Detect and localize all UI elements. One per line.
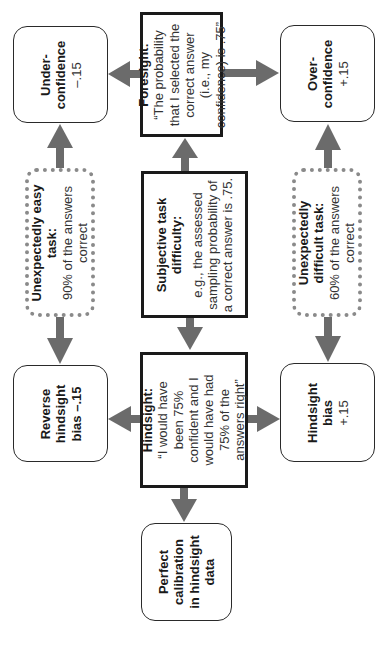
arrow-subjective-to-hindsight: [177, 317, 203, 350]
easy-task-box: Unexpectedly easy task: 90% of the answe…: [25, 168, 95, 317]
foresight-line-4: (i.e., my: [197, 15, 212, 134]
foresight-line-2: that I selected the: [166, 15, 181, 134]
subjective-line-2: sampling probability of: [205, 174, 220, 316]
perfect-calibration-title-1: Perfect: [156, 523, 171, 621]
overconfidence-value: +.15: [335, 26, 350, 121]
overconfidence-box: Over- confidence +.15: [280, 25, 375, 122]
perfect-calibration-title-4: data: [202, 523, 217, 621]
perfect-calibration-title-3: in hindsight: [187, 523, 202, 621]
overconfidence-title-1: Over-: [305, 26, 320, 121]
easy-task-title-1: Unexpectedly easy: [29, 173, 44, 313]
arrow-hindsight-to-hindsightbias: [248, 406, 280, 432]
foresight-title: Foresight:: [136, 15, 151, 134]
arrow-foresight-to-overconfidence: [222, 60, 279, 86]
hindsight-bias-box: Hindsight bias +.15: [280, 363, 375, 462]
hindsight-line-2: been 75%: [171, 355, 186, 485]
hindsight-line-6: answers right”: [232, 355, 247, 485]
perfect-calibration-title-2: calibration: [171, 523, 186, 621]
arrow-hindsight-to-reverse: [108, 406, 141, 432]
difficult-task-line-2: correct: [342, 173, 357, 313]
underconfidence-title-2: confidence: [53, 27, 68, 122]
hindsight-bias-title-1: Hindsight: [305, 365, 320, 460]
subjective-line-1: e.g., the assessed: [189, 174, 204, 316]
difficult-task-title-2: difficult task:: [312, 173, 327, 313]
hindsight-bias-title-2: bias: [320, 365, 335, 460]
difficult-task-title-1: Unexpectedly: [296, 173, 311, 313]
arrow-hindsight-to-perfect: [171, 487, 197, 522]
subjective-line-3: a correct answer is .75.: [220, 174, 235, 316]
underconfidence-box: Under- confidence –.15: [13, 26, 108, 123]
perfect-calibration-box: Perfect calibration in hindsight data: [141, 523, 232, 621]
hindsight-line-5: 75% of the: [217, 355, 232, 485]
reverse-hindsight-box: Reverse hindsight bias –.15: [13, 365, 108, 462]
hindsight-box: Hindsight: “I would have been 75% confid…: [140, 352, 248, 488]
reverse-hindsight-title-3: bias –.15: [68, 366, 83, 461]
arrow-easy-to-reverse: [47, 316, 73, 364]
reverse-hindsight-title-2: hindsight: [53, 366, 68, 461]
foresight-box: Foresight: “The probability that I selec…: [140, 12, 223, 137]
hindsight-title: Hindsight:: [140, 355, 155, 485]
reverse-hindsight-title-1: Reverse: [38, 366, 53, 461]
hindsight-line-4: would have had: [202, 355, 217, 485]
subjective-title-1: Subjective task: [154, 174, 169, 316]
foresight-line-3: correct answer: [182, 15, 197, 134]
subjective-difficulty-box: Subjective task difficulty: e.g., the as…: [141, 171, 248, 318]
easy-task-line-2: correct: [75, 173, 90, 313]
subjective-title-2: difficulty:: [169, 174, 184, 316]
arrow-difficult-to-overconfidence: [315, 124, 341, 170]
easy-task-line-1: 90% of the answers: [60, 173, 75, 313]
difficult-task-box: Unexpectedly difficult task: 60% of the …: [292, 168, 362, 317]
overconfidence-title-2: confidence: [320, 26, 335, 121]
underconfidence-value: –.15: [68, 27, 83, 122]
foresight-line-5: confidence) is .75”: [212, 15, 227, 134]
arrow-subjective-to-foresight: [172, 138, 198, 172]
underconfidence-title-1: Under-: [38, 27, 53, 122]
foresight-line-1: “The probability: [151, 15, 166, 134]
hindsight-line-1: “I would have: [156, 355, 171, 485]
easy-task-title-2: task:: [45, 173, 60, 313]
hindsight-line-3: confident and I: [186, 355, 201, 485]
hindsight-bias-value: +.15: [335, 365, 350, 460]
arrow-difficult-to-hindsightbias: [315, 316, 341, 362]
difficult-task-line-1: 60% of the answers: [327, 173, 342, 313]
arrow-easy-to-underconfidence: [47, 124, 73, 170]
